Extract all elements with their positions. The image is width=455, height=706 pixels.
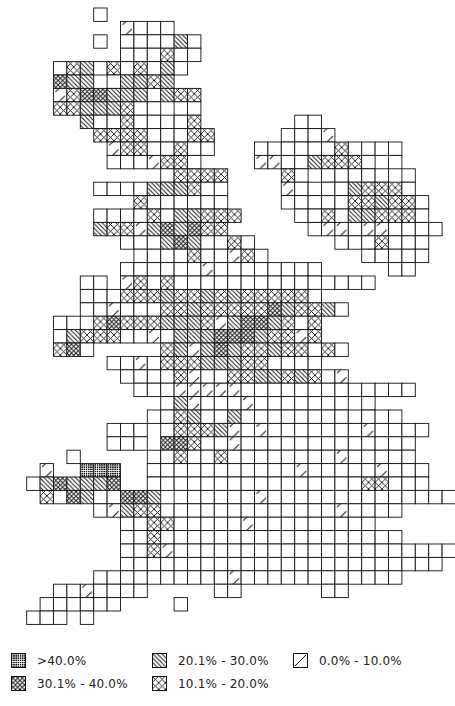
grid-cell [107,504,120,517]
grid-cell [188,370,201,383]
grid-cell [161,249,174,262]
grid-cell [214,356,227,369]
grid-cell [322,544,335,557]
grid-cell [348,410,361,423]
grid-cell [228,450,241,463]
grid-cell [348,437,361,450]
grid-cell [121,584,134,597]
grid-cell [134,21,147,34]
grid-cell [107,477,120,490]
grid-cell [174,397,187,410]
grid-cell [281,464,294,477]
dense-diagonal-swatch-icon [152,653,167,668]
grid-cell [94,222,107,235]
grid-cell [188,356,201,369]
grid-cell [281,330,294,343]
grid-cell [147,450,160,463]
grid-cell [214,531,227,544]
grid-cell [308,182,321,195]
grid-cell [335,410,348,423]
grid-cell [147,249,160,262]
grid-cell [348,531,361,544]
grid-cell [174,102,187,115]
grid-cell [268,517,281,530]
grid-cell [281,571,294,584]
grid-cell [335,169,348,182]
grid-cell [201,209,214,222]
grid-cell [214,437,227,450]
grid-cell [94,504,107,517]
legend-item-0-10: 0.0% - 10.0% [293,653,402,668]
grid-cell [134,571,147,584]
grid-cell [335,397,348,410]
grid-cell [161,397,174,410]
grid-cell [214,169,227,182]
grid-cell [322,477,335,490]
grid-cell [121,142,134,155]
grid-cell [214,544,227,557]
grid-cell [389,504,402,517]
grid-cell [201,222,214,235]
grid-cell [107,75,120,88]
grid-cell [121,222,134,235]
grid-cell [134,129,147,142]
grid-cell [241,464,254,477]
grid-cell [308,343,321,356]
grid-cell [201,289,214,302]
grid-cell [228,557,241,570]
grid-cell [174,182,187,195]
grid-cell [348,477,361,490]
grid-cell [389,571,402,584]
grid-cell [188,316,201,329]
grid-cell [268,437,281,450]
grid-cell [94,571,107,584]
grid-cell [161,437,174,450]
grid-cell [402,464,415,477]
grid-cell [174,222,187,235]
grid-cell [147,316,160,329]
grid-cell [322,464,335,477]
grid-cell [214,464,227,477]
grid-cell [375,571,388,584]
grid-cell [281,289,294,302]
map-cells [27,8,455,624]
grid-cell [402,477,415,490]
grid-cell [94,115,107,128]
grid-cell [54,102,67,115]
grid-cell [375,531,388,544]
grid-cell [362,209,375,222]
grid-cell [228,531,241,544]
grid-cell [188,437,201,450]
grid-cell [295,397,308,410]
grid-cell [188,330,201,343]
grid-cell [308,316,321,329]
grid-cell [40,464,53,477]
grid-cell [362,531,375,544]
grid-cell [121,423,134,436]
grid-cell [188,142,201,155]
grid-cell [147,289,160,302]
grid-cell [161,504,174,517]
grid-cell [121,115,134,128]
grid-cell [268,571,281,584]
grid-cell [134,182,147,195]
grid-cell [295,383,308,396]
grid-cell [241,490,254,503]
grid-cell [308,423,321,436]
grid-cell [308,544,321,557]
grid-cell [67,330,80,343]
grid-cell [308,155,321,168]
grid-cell [295,437,308,450]
grid-cell [429,557,442,570]
grid-cell [161,370,174,383]
grid-cell [134,196,147,209]
grid-cell [80,289,93,302]
grid-cell [188,544,201,557]
grid-cell [54,316,67,329]
grid-cell [295,571,308,584]
grid-cell [134,155,147,168]
grid-cell [214,330,227,343]
grid-cell [214,303,227,316]
grid-cell [161,196,174,209]
grid-cell [415,490,428,503]
